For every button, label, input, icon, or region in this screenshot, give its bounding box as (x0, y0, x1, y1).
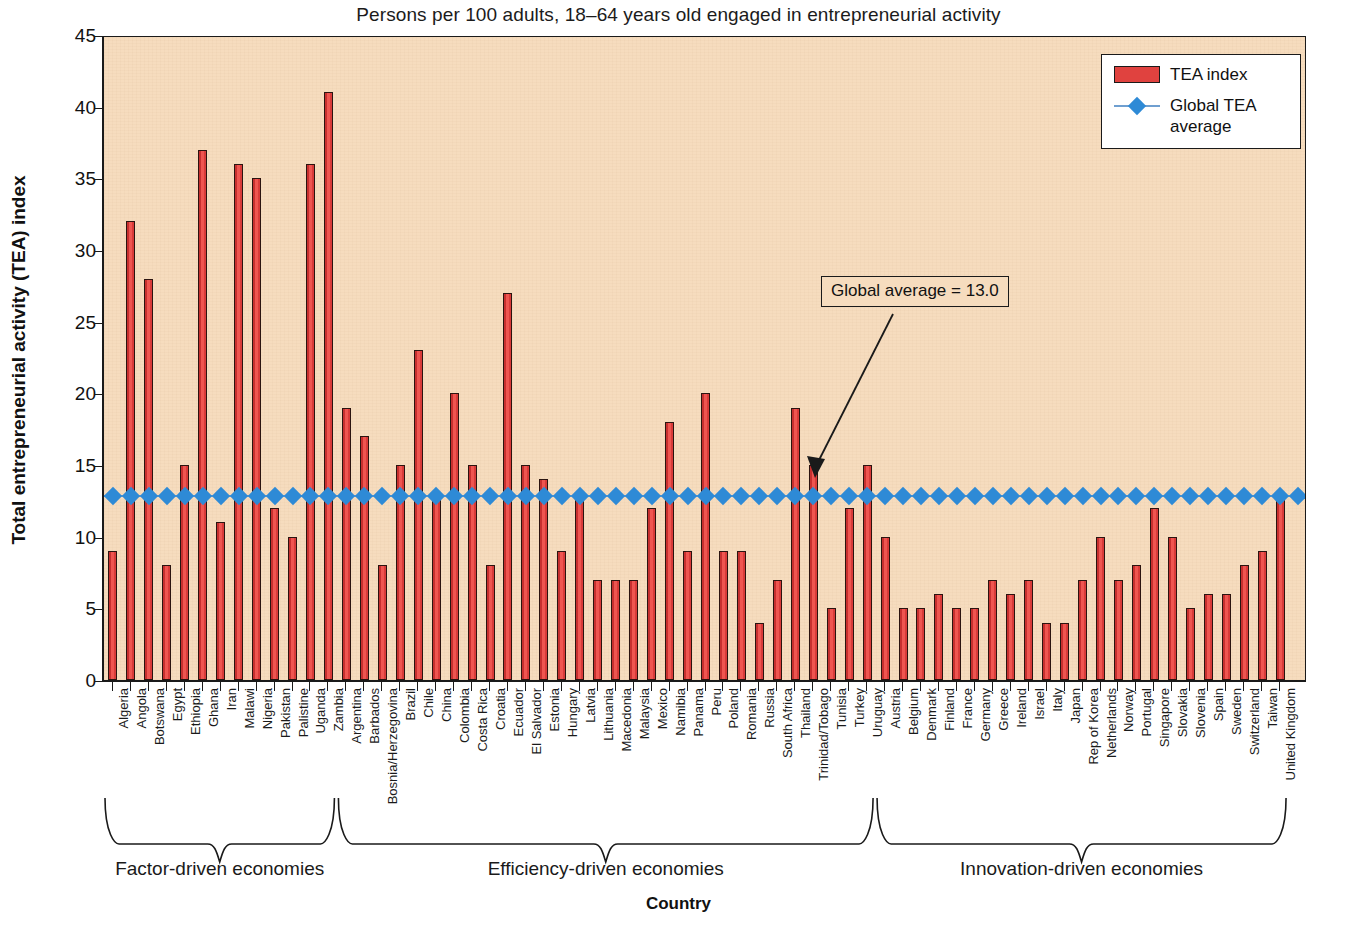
legend-item-tea-index: TEA index (1114, 64, 1288, 85)
x-tick-label: Spain (1212, 688, 1225, 721)
bar (647, 508, 656, 680)
x-tick-label: Slovakia (1176, 688, 1189, 737)
y-tick-label: 15 (54, 455, 96, 477)
bar (988, 580, 997, 680)
x-tick-label: Portugal (1140, 688, 1153, 736)
x-tick-label: Israel (1033, 688, 1046, 720)
x-tick-label: Costa Rica (476, 688, 489, 752)
x-tick-label: Italy (1051, 688, 1064, 712)
bar (1150, 508, 1159, 680)
bar (1024, 580, 1033, 680)
bar (845, 508, 854, 680)
bar (1042, 623, 1051, 680)
bar (952, 608, 961, 680)
y-tick-label: 40 (54, 97, 96, 119)
x-tick-label: China (440, 688, 453, 722)
group-brace (877, 798, 1286, 862)
x-tick-label: Mexico (656, 688, 669, 729)
group-brace (105, 798, 334, 862)
bar (288, 537, 297, 680)
x-tick-label: Argentina (350, 688, 363, 744)
bar (252, 178, 261, 680)
x-tick-label: Taiwan (1266, 688, 1279, 728)
x-tick-label: Russia (763, 688, 776, 728)
x-tick-label: Malawi (243, 688, 256, 728)
bar (342, 408, 351, 680)
bar (144, 279, 153, 680)
bar (683, 551, 692, 680)
group-brace (338, 798, 873, 862)
bar (360, 436, 369, 680)
x-tick-label: Switzerland (1248, 688, 1261, 755)
bar (1204, 594, 1213, 680)
y-tick-label: 30 (54, 240, 96, 262)
bar (432, 494, 441, 680)
y-tick-mark (94, 609, 103, 610)
x-tick-label: Finland (943, 688, 956, 731)
bar (108, 551, 117, 680)
y-tick-label: 45 (54, 25, 96, 47)
bar (162, 565, 171, 680)
x-tick-label: Belgium (907, 688, 920, 735)
y-tick-label: 35 (54, 168, 96, 190)
x-tick-label: Hungary (566, 688, 579, 737)
group-labels: Factor-driven economiesEfficiency-driven… (0, 858, 1357, 888)
bar (755, 623, 764, 680)
x-tick-label: Angola (135, 688, 148, 728)
bar (629, 580, 638, 680)
x-tick-label: Netherlands (1105, 688, 1118, 758)
x-tick-label: Bosnia/Herzegovina (386, 688, 399, 804)
x-tick-label: Malaysia (638, 688, 651, 739)
y-tick-mark (94, 538, 103, 539)
bar (934, 594, 943, 680)
chart-title: Persons per 100 adults, 18–64 years old … (0, 4, 1357, 26)
x-tick-label: Romania (745, 688, 758, 740)
y-tick-mark (94, 466, 103, 467)
bar (198, 150, 207, 680)
bar (378, 565, 387, 680)
x-tick-label: Thailand (799, 688, 812, 738)
bar (593, 580, 602, 680)
x-tick-label: Barbados (368, 688, 381, 744)
y-tick-label: 25 (54, 312, 96, 334)
y-axis-title-text: Total entrepreneurial activity (TEA) ind… (8, 175, 30, 544)
bar (1060, 623, 1069, 680)
y-tick-label: 20 (54, 383, 96, 405)
legend-label-global-average: Global TEA average (1170, 95, 1288, 137)
x-tick-label: Egypt (171, 688, 184, 721)
x-tick-label: Ecuador (512, 688, 525, 736)
x-tick-label: Poland (727, 688, 740, 728)
x-tick-label: Uganda (314, 688, 327, 734)
x-tick-label: Lithuania (602, 688, 615, 741)
bar (1240, 565, 1249, 680)
y-tick-label: 5 (54, 598, 96, 620)
x-tick-label: Trinidad/Tobago (817, 688, 830, 781)
chart-legend: TEA index Global TEA average (1101, 54, 1301, 149)
x-tick-label: Croatia (494, 688, 507, 730)
x-tick-label: Colombia (458, 688, 471, 743)
x-tick-label: Norway (1122, 688, 1135, 732)
bar (414, 350, 423, 680)
x-tick-label: Turkey (853, 688, 866, 727)
x-tick-label: Chile (422, 688, 435, 718)
bar (1132, 565, 1141, 680)
bar (126, 221, 135, 680)
bar (450, 393, 459, 680)
x-tick-label: Sweden (1230, 688, 1243, 735)
legend-item-global-average: Global TEA average (1114, 95, 1288, 137)
bar (1078, 580, 1087, 680)
global-average-annotation: Global average = 13.0 (821, 276, 1009, 307)
bar (611, 580, 620, 680)
y-tick-mark (94, 36, 103, 37)
x-tick-label: Macedonia (620, 688, 633, 752)
x-tick-label: Ireland (1015, 688, 1028, 728)
y-tick-mark (94, 323, 103, 324)
x-tick-label: South Africa (781, 688, 794, 758)
x-tick-label: Greece (997, 688, 1010, 731)
bar (1258, 551, 1267, 680)
x-tick-label: Iran (225, 688, 238, 710)
bar (324, 92, 333, 680)
bar (539, 479, 548, 680)
bar (701, 393, 710, 680)
y-tick-mark (94, 251, 103, 252)
